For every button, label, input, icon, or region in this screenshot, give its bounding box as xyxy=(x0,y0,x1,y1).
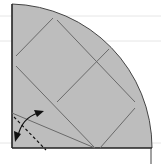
fold-diagram xyxy=(0,0,161,168)
